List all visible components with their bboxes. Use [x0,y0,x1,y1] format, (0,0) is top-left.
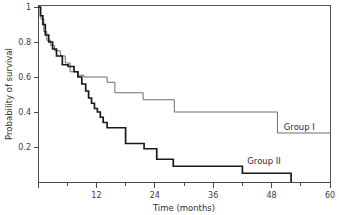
x-tick-label-60: 60 [325,191,335,200]
survival-curve-group-1 [38,7,330,133]
y-axis-title: Probability of survival [4,48,14,140]
x-tick-label-12: 12 [91,191,101,200]
y-tick-label-06: 0.6 [18,73,31,82]
x-tick-label-48: 48 [267,191,277,200]
y-tick-label-1: 1 [26,3,31,12]
series-label-group-1: Group I [284,122,315,132]
y-tick-label-04: 0.4 [18,108,31,117]
y-tick-label-08: 0.8 [18,38,31,47]
series-label-group-2: Group II [247,156,281,166]
x-axis-title: Time (months) [152,203,215,213]
survival-chart-svg: 1 0.8 0.6 0.4 0.2 Probability of surviva… [0,0,339,215]
x-tick-label-24: 24 [150,191,160,200]
plot-frame [38,5,330,182]
x-tick-label-36: 36 [208,191,218,200]
km-survival-figure: 1 0.8 0.6 0.4 0.2 Probability of surviva… [0,0,339,215]
y-tick-label-02: 0.2 [18,143,31,152]
